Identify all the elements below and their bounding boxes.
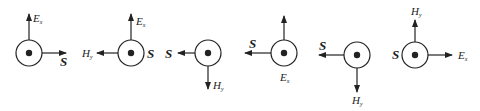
e-field-label: Ex: [457, 49, 468, 62]
diagram-1: Ex S: [16, 12, 67, 69]
field-orientation-diagrams: Ex S Ex Hy S S Hy S Ex S Hy: [0, 0, 480, 111]
diagram-2: Ex Hy S: [81, 14, 154, 66]
e-field-label: Ex: [279, 71, 290, 84]
h-field-label: Hy: [351, 94, 363, 107]
s-vector-label: S: [60, 54, 67, 69]
e-field-label: Ex: [32, 12, 43, 25]
out-of-page-dot-icon: [205, 50, 211, 56]
s-vector-label: S: [165, 46, 172, 61]
e-field-label: Ex: [135, 15, 146, 28]
diagram-3: S Hy: [165, 40, 224, 92]
out-of-page-dot-icon: [354, 52, 360, 58]
s-vector-label: S: [319, 38, 326, 53]
s-vector-label: S: [392, 47, 399, 62]
h-field-label: Hy: [410, 5, 422, 18]
out-of-page-dot-icon: [26, 50, 32, 56]
s-vector-label: S: [147, 46, 154, 61]
s-vector-label: S: [249, 36, 256, 51]
h-field-label: Hy: [81, 47, 93, 60]
diagram-6: Hy S Ex: [392, 5, 468, 68]
out-of-page-dot-icon: [281, 50, 287, 56]
h-field-label: Hy: [212, 79, 224, 92]
out-of-page-dot-icon: [412, 52, 418, 58]
diagram-5: S Hy: [319, 38, 370, 107]
diagram-4: S Ex: [245, 16, 297, 84]
out-of-page-dot-icon: [128, 50, 134, 56]
